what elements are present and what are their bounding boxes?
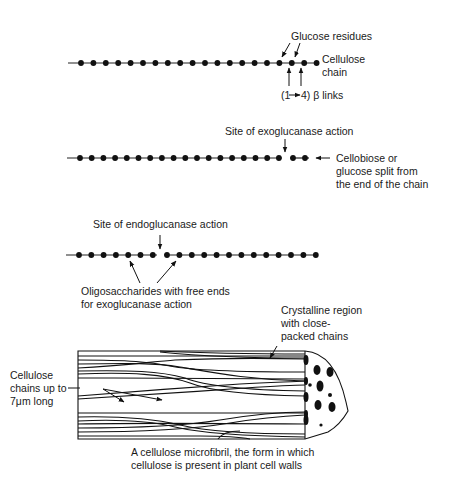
glucose-residue-arrow <box>295 43 300 57</box>
glucose-residue <box>124 155 130 161</box>
glucose-residue <box>171 155 177 161</box>
glucose-residue <box>194 155 200 161</box>
glucose-residue <box>78 60 84 66</box>
glucose-residue <box>101 155 107 161</box>
glucose-residue <box>182 155 188 161</box>
glucose-residue <box>239 252 245 258</box>
crystalline-region-label-2: with close- <box>281 317 331 330</box>
split-product-label-2: glucose split from <box>336 165 418 178</box>
glucose-residue <box>177 252 183 258</box>
glucose-residue <box>150 252 156 258</box>
glucose-residue <box>229 155 235 161</box>
glucose-residue <box>264 155 270 161</box>
glucose-residue <box>138 252 144 258</box>
glucose-residue <box>103 60 109 66</box>
glucose-residue <box>276 252 282 258</box>
cellulose-chain-2 <box>67 139 330 161</box>
oligosaccharide-arrow <box>157 261 176 283</box>
glucose-residue <box>128 60 134 66</box>
glucose-residue <box>301 60 307 66</box>
glucose-residue-arrow <box>282 43 290 57</box>
glucose-residue <box>239 60 245 66</box>
glucose-residue <box>153 60 159 66</box>
crystalline-region-label-3: packed chains <box>281 330 348 343</box>
chains-length-label-3: 7μm long <box>10 395 53 408</box>
glucose-residue <box>263 252 269 258</box>
glucose-residue <box>165 60 171 66</box>
glucose-residues-label: Glucose residues <box>291 30 372 43</box>
glucose-residue <box>289 60 295 66</box>
glucose-residue <box>290 155 296 161</box>
glucose-residue <box>302 155 308 161</box>
glucose-residue <box>190 60 196 66</box>
glucose-residue <box>214 252 220 258</box>
glucose-residue <box>252 60 258 66</box>
oligosaccharides-label-1: Oligosaccharides with free ends <box>81 285 230 298</box>
microfibril-caption-2: cellulose is present in plant cell walls <box>131 459 302 472</box>
cellulose-chain-label: Cellulose <box>322 53 365 66</box>
glucose-residue <box>147 155 153 161</box>
glucose-residue <box>136 155 142 161</box>
chains-length-label-1: Cellulose <box>10 369 53 382</box>
glucose-residue <box>76 252 82 258</box>
glucose-residue <box>159 155 165 161</box>
crystalline-region-label-1: Crystalline region <box>281 304 362 317</box>
glucose-residue <box>112 155 118 161</box>
beta-links-label-prefix: (1 <box>281 89 290 102</box>
glucose-residue <box>277 60 283 66</box>
cellulose-diagram <box>0 0 460 484</box>
exoglucanase-site-label: Site of exoglucanase action <box>225 125 353 138</box>
cellulose-chain-label-2: chain <box>322 66 347 79</box>
glucose-residue <box>276 155 282 161</box>
glucose-residue <box>251 252 257 258</box>
glucose-residue <box>241 155 247 161</box>
glucose-residue <box>218 155 224 161</box>
glucose-residue <box>226 252 232 258</box>
split-product-label-1: Cellobiose or <box>336 152 397 165</box>
glucose-residue <box>201 252 207 258</box>
glucose-residue <box>140 60 146 66</box>
glucose-residue <box>215 60 221 66</box>
glucose-residue <box>314 60 320 66</box>
beta-links-label: 4) β links <box>301 89 343 102</box>
glucose-residue <box>288 252 294 258</box>
glucose-residue <box>189 252 195 258</box>
glucose-residue <box>89 155 95 161</box>
glucose-residue <box>202 60 208 66</box>
microfibril-cross-section <box>308 365 335 427</box>
chains-length-label-2: chains up to <box>10 382 67 395</box>
glucose-residue <box>301 252 307 258</box>
oligosaccharides-label-2: for exoglucanase action <box>81 298 192 311</box>
cellulose-chain-1 <box>68 43 320 95</box>
glucose-residue <box>91 60 97 66</box>
split-product-label-3: the end of the chain <box>336 178 428 191</box>
glucose-residue <box>77 155 83 161</box>
glucose-residue <box>115 60 121 66</box>
glucose-residue <box>125 252 131 258</box>
glucose-residue <box>88 252 94 258</box>
cellulose-chain-3 <box>66 235 319 283</box>
glucose-residue <box>101 252 107 258</box>
glucose-residue <box>206 155 212 161</box>
glucose-residue <box>164 252 170 258</box>
glucose-residue <box>113 252 119 258</box>
glucose-residue <box>264 60 270 66</box>
glucose-residue <box>177 60 183 66</box>
glucose-residue <box>227 60 233 66</box>
microfibril-caption-1: A cellulose microfibril, the form in whi… <box>131 446 314 459</box>
glucose-residue <box>313 252 319 258</box>
glucose-residue <box>253 155 259 161</box>
endoglucanase-site-label: Site of endoglucanase action <box>93 218 228 231</box>
oligosaccharide-arrow <box>130 261 140 283</box>
microfibril-chain-ends <box>304 355 309 425</box>
